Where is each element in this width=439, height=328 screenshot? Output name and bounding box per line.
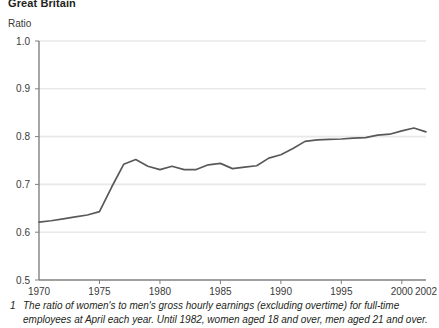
x-tick-label: 1985 xyxy=(209,286,232,297)
y-tick-labels-group: 1.00.90.80.70.60.5 xyxy=(16,36,30,286)
data-series-group xyxy=(39,128,426,222)
x-tick-label: 1980 xyxy=(149,286,172,297)
x-tick-label: 1995 xyxy=(330,286,353,297)
y-tick-label: 0.6 xyxy=(16,227,30,238)
x-tick-labels-group: 19701975198019851990199520002002 xyxy=(28,286,438,297)
plot-area: 1.00.90.80.70.60.5 197019751980198519901… xyxy=(0,0,439,300)
x-tick-label: 1990 xyxy=(270,286,293,297)
y-tick-label: 0.5 xyxy=(16,275,30,286)
footnote-marker: 1 xyxy=(10,299,22,313)
footnote: 1 The ratio of women's to men's gross ho… xyxy=(10,299,435,326)
x-tick-label: 1975 xyxy=(88,286,111,297)
footnote-text: The ratio of women's to men's gross hour… xyxy=(23,299,435,326)
x-tick-label: 1970 xyxy=(28,286,51,297)
data-series-line xyxy=(39,128,426,222)
y-tick-label: 0.9 xyxy=(16,83,30,94)
y-tick-label: 0.8 xyxy=(16,131,30,142)
earnings-ratio-chart: Great Britain Ratio 1.00.90.80.70.60.5 1… xyxy=(0,0,439,328)
y-tick-label: 1.0 xyxy=(16,36,30,47)
x-tick-label: 2000 xyxy=(391,286,414,297)
x-tick-label: 2002 xyxy=(415,286,438,297)
axis-lines-group xyxy=(35,41,426,284)
y-tick-label: 0.7 xyxy=(16,179,30,190)
